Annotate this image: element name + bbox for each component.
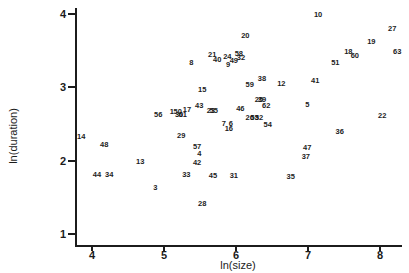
data-point-label: 36 bbox=[336, 128, 344, 136]
data-point-label: 43 bbox=[195, 103, 203, 111]
y-axis-line bbox=[75, 8, 77, 247]
data-point-label: 35 bbox=[287, 173, 295, 181]
data-point-label: 42 bbox=[193, 159, 201, 167]
x-tick-label: 8 bbox=[377, 249, 383, 261]
x-tick-label: 6 bbox=[233, 249, 239, 261]
data-point-label: 27 bbox=[388, 25, 396, 33]
data-point-label: 44 bbox=[93, 172, 101, 180]
data-point-label: 59 bbox=[246, 81, 254, 89]
data-point-label: 46 bbox=[236, 106, 244, 114]
data-point-label: 29 bbox=[177, 132, 185, 140]
data-point-label: 49 bbox=[230, 57, 238, 65]
x-axis-line bbox=[75, 245, 402, 247]
x-tick-label: 4 bbox=[89, 249, 95, 261]
y-axis-title: ln(duration) bbox=[7, 108, 19, 164]
data-point-label: 33 bbox=[182, 172, 190, 180]
data-point-label: 52 bbox=[255, 114, 263, 122]
data-point-label: 56 bbox=[154, 111, 162, 119]
data-point-label: 8 bbox=[189, 59, 193, 67]
data-point-label: 4 bbox=[197, 150, 201, 158]
y-tick-label: 2 bbox=[60, 155, 66, 167]
data-point-label: 38 bbox=[258, 76, 266, 84]
data-point-label: 40 bbox=[213, 56, 221, 64]
data-point-label: 34 bbox=[105, 172, 113, 180]
y-tick-mark bbox=[68, 13, 75, 15]
data-point-label: 22 bbox=[378, 112, 386, 120]
y-tick-label: 1 bbox=[60, 228, 66, 240]
x-tick-label: 5 bbox=[161, 249, 167, 261]
data-point-label: 48 bbox=[100, 142, 108, 150]
data-point-label: 47 bbox=[303, 144, 311, 152]
data-point-label: 3 bbox=[153, 184, 157, 192]
data-point-label: 41 bbox=[311, 77, 319, 85]
data-point-label: 10 bbox=[314, 11, 322, 19]
data-point-label: 14 bbox=[77, 133, 85, 141]
data-point-label: 12 bbox=[277, 81, 285, 89]
data-point-label: 61 bbox=[179, 111, 187, 119]
data-point-label: 9 bbox=[226, 62, 230, 70]
y-tick-mark bbox=[68, 160, 75, 162]
data-point-label: 28 bbox=[198, 200, 206, 208]
x-tick-label: 7 bbox=[305, 249, 311, 261]
y-tick-mark bbox=[68, 233, 75, 235]
data-point-label: 45 bbox=[209, 172, 217, 180]
data-point-label: 54 bbox=[264, 121, 272, 129]
data-point-label: 51 bbox=[331, 59, 339, 67]
data-point-label: 55 bbox=[210, 107, 218, 115]
data-point-label: 60 bbox=[351, 52, 359, 60]
data-point-label: 62 bbox=[262, 103, 270, 111]
data-point-label: 13 bbox=[136, 158, 144, 166]
data-point-label: 31 bbox=[230, 172, 238, 180]
y-tick-mark bbox=[68, 86, 75, 88]
data-point-label: 19 bbox=[367, 38, 375, 46]
data-point-label: 20 bbox=[241, 32, 249, 40]
data-point-label: 63 bbox=[393, 48, 401, 56]
data-point-label: 15 bbox=[198, 87, 206, 95]
y-tick-label: 3 bbox=[60, 81, 66, 93]
data-point-label: 16 bbox=[225, 125, 233, 133]
scatter-plot-figure: ln(duration) ln(size) 123445678 10272019… bbox=[0, 0, 409, 273]
data-point-label: 5 bbox=[305, 101, 309, 109]
data-point-label: 32 bbox=[237, 54, 245, 62]
data-point-label: 37 bbox=[302, 153, 310, 161]
y-tick-label: 4 bbox=[60, 8, 66, 20]
